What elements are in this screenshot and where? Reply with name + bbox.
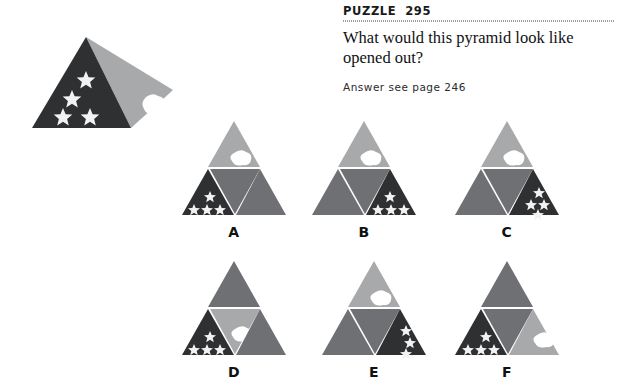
- option-f-label: F: [455, 364, 559, 380]
- net-top-triangle: [481, 121, 533, 167]
- puzzle-label: PUZZLE: [343, 4, 396, 18]
- puzzle-text-block: PUZZLE 295 What would this pyramid look …: [343, 4, 616, 93]
- puzzle-page: PUZZLE 295 What would this pyramid look …: [0, 0, 624, 384]
- option-d[interactable]: D: [182, 259, 286, 380]
- puzzle-question: What would this pyramid look like opened…: [343, 28, 616, 68]
- puzzle-heading: PUZZLE 295: [343, 4, 616, 18]
- net-top-triangle: [481, 261, 533, 307]
- net-top-triangle: [208, 121, 260, 167]
- net-top-triangle: [348, 261, 400, 307]
- net-top-triangle: [338, 121, 390, 167]
- option-d-label: D: [182, 364, 286, 380]
- dotted-divider: [343, 20, 615, 22]
- option-e[interactable]: E: [322, 259, 426, 380]
- option-a-label: A: [182, 224, 286, 240]
- option-c-label: C: [455, 224, 559, 240]
- puzzle-number: 295: [405, 4, 431, 18]
- option-f[interactable]: F: [455, 259, 559, 380]
- option-c[interactable]: C: [455, 119, 559, 240]
- pyramid-3d-figure: [18, 14, 188, 139]
- answer-reference: Answer see page 246: [343, 81, 616, 93]
- option-e-label: E: [322, 364, 426, 380]
- option-a[interactable]: A: [182, 119, 286, 240]
- option-b-label: B: [312, 224, 416, 240]
- option-b[interactable]: B: [312, 119, 416, 240]
- net-top-triangle: [208, 261, 260, 307]
